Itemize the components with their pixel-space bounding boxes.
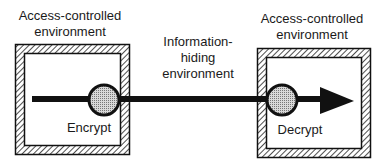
- middle-env-label-line3: environment: [162, 66, 234, 81]
- encrypt-label: Encrypt: [67, 120, 111, 135]
- encrypt-node: [89, 85, 119, 115]
- middle-env-label-line1: Information-: [163, 34, 232, 49]
- decrypt-node: [267, 85, 297, 115]
- encryption-diagram: Access-controlled environment Informatio…: [0, 0, 381, 165]
- right-env-label-line1: Access-controlled: [261, 11, 364, 26]
- left-env-label-line2: environment: [34, 24, 106, 39]
- left-env-label-line1: Access-controlled: [19, 8, 122, 23]
- right-env-label-line2: environment: [276, 27, 348, 42]
- middle-env-label-line2: hiding: [181, 50, 216, 65]
- decrypt-label: Decrypt: [278, 122, 323, 137]
